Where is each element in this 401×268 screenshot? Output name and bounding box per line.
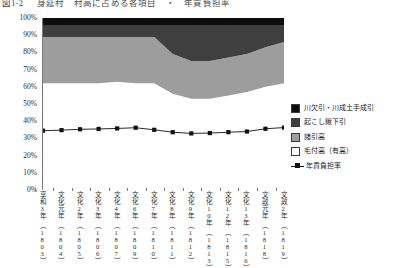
chart-legend: 川欠引・川成土手成引起こし鍬下引諸引高毛付高（有高）年貢負担率	[291, 102, 399, 175]
legend-item-label: 川欠引・川成土手成引	[304, 104, 374, 113]
y-axis-tick-label: 50%	[23, 100, 37, 108]
x-axis-year-label: （1806）	[94, 222, 101, 264]
y-axis-tick-label: 60%	[23, 83, 37, 91]
x-axis-tick: 文化13年（1816）	[238, 191, 253, 268]
x-axis-tick: 文政元年（1818）	[257, 191, 272, 265]
y-axis-tick-label: 20%	[23, 152, 37, 160]
x-axis-year-label: （1816）	[242, 229, 249, 268]
line-series-marker	[43, 129, 45, 133]
x-axis-tick: 文化6年（1809）	[127, 191, 142, 265]
x-axis-year-label: （1805）	[76, 222, 83, 264]
x-axis-era-label: 享和3年	[38, 191, 45, 219]
x-axis-era-label: 文化10年	[205, 191, 212, 226]
legend-color-swatch	[291, 118, 300, 127]
x-axis-tick: 文化2年（1805）	[72, 191, 87, 265]
legend-color-swatch	[291, 104, 300, 113]
x-axis: 享和3年（1803）文化元年（1804）文化2年（1805）文化3年（1806）…	[42, 191, 283, 268]
y-axis-tick-label: 40%	[23, 117, 37, 125]
legend-item: 諸引高	[291, 131, 399, 143]
x-axis-tick-mark	[72, 188, 73, 191]
x-axis-tick: 文政2年（1819）	[276, 191, 291, 265]
x-axis-tick-mark	[164, 188, 165, 191]
stacked-area-svg	[43, 18, 284, 190]
y-axis-tick-label: 10%	[23, 169, 37, 177]
x-axis-tick: 文化元年（1804）	[53, 191, 68, 265]
x-axis-tick-mark	[127, 188, 128, 191]
y-axis-tick-label: 80%	[23, 48, 37, 56]
x-axis-era-label: 文化3年	[94, 191, 101, 219]
x-axis-year-label: （1819）	[279, 222, 286, 264]
legend-item: 起こし鍬下引	[291, 117, 399, 129]
x-axis-era-label: 文化2年	[76, 191, 83, 219]
x-axis-tick-mark	[35, 188, 36, 191]
x-axis-era-label: 文化8年	[168, 191, 175, 219]
x-axis-era-label: 文化13年	[242, 191, 249, 226]
legend-color-swatch	[291, 147, 300, 156]
x-axis-era-label: 文化6年	[131, 191, 138, 219]
legend-color-swatch	[291, 133, 300, 142]
x-axis-tick-mark	[183, 188, 184, 191]
area-band	[43, 18, 284, 25]
x-axis-year-label: （1815）	[224, 229, 231, 268]
x-axis-era-label: 文政元年	[261, 191, 268, 219]
x-axis-tick-mark	[109, 188, 110, 191]
x-axis-tick: 享和3年（1803）	[35, 191, 50, 265]
x-axis-era-label: 文化9年	[187, 191, 194, 219]
x-axis-year-label: （1803）	[38, 222, 45, 264]
x-axis-tick-mark	[146, 188, 147, 191]
legend-item-label: 起こし鍬下引	[304, 118, 346, 127]
x-axis-year-label: （1811）	[168, 222, 175, 264]
x-axis-year-label: （1807）	[113, 222, 120, 264]
x-axis-era-label: 文化元年	[57, 191, 64, 219]
y-axis-tick-label: 90%	[23, 31, 37, 39]
x-axis-tick: 文化9年（1812）	[183, 191, 198, 265]
line-series-marker	[282, 125, 284, 129]
line-series-marker	[152, 128, 156, 132]
x-axis-era-label: 文政2年	[279, 191, 286, 219]
x-axis-tick: 文化7年（1810）	[146, 191, 161, 265]
x-axis-tick-mark	[53, 188, 54, 191]
legend-item: 毛付高（有高）	[291, 146, 399, 158]
line-series-marker	[59, 128, 63, 132]
x-axis-year-label: （1804）	[57, 222, 64, 264]
figure-title: 図1-2 身延村 村高に占める各項目 ・ 年貢負担率	[2, 0, 230, 8]
legend-line-icon	[291, 162, 304, 171]
x-axis-year-label: （1810）	[150, 222, 157, 264]
line-series-marker	[171, 130, 175, 134]
line-series-marker	[189, 131, 193, 135]
line-series-marker	[115, 126, 119, 130]
x-axis-tick-mark	[201, 188, 202, 191]
line-series-marker	[78, 127, 82, 131]
x-axis-tick: 文化12年（1815）	[220, 191, 235, 268]
y-axis-tick-label: 30%	[23, 134, 37, 142]
line-series-marker	[134, 126, 138, 130]
x-axis-year-label: （1813）	[205, 229, 212, 268]
x-axis-tick: 文化10年（1813）	[201, 191, 216, 268]
line-series-marker	[245, 129, 249, 133]
x-axis-year-label: （1812）	[187, 222, 194, 264]
x-axis-tick-mark	[238, 188, 239, 191]
legend-item-label: 年貢負担率	[306, 162, 341, 171]
x-axis-year-label: （1809）	[131, 222, 138, 264]
x-axis-tick-mark	[276, 188, 277, 191]
area-band	[43, 82, 284, 190]
legend-item-label: 毛付高（有高）	[304, 147, 353, 156]
line-series-marker	[208, 131, 212, 135]
chart-plot-area	[42, 18, 283, 190]
line-series-marker	[226, 130, 230, 134]
y-axis-tick-label: 100%	[20, 14, 38, 22]
x-axis-tick: 文化3年（1806）	[90, 191, 105, 265]
x-axis-tick-mark	[220, 188, 221, 191]
x-axis-year-label: （1818）	[261, 222, 268, 264]
y-axis: 0%10%20%30%40%50%60%70%80%90%100%	[0, 18, 40, 190]
x-axis-tick-mark	[90, 188, 91, 191]
x-axis-tick: 文化4年（1807）	[109, 191, 124, 265]
x-axis-era-label: 文化7年	[150, 191, 157, 219]
line-series-marker	[97, 127, 101, 131]
line-series-marker	[263, 127, 267, 131]
x-axis-tick: 文化8年（1811）	[164, 191, 179, 265]
legend-item-label: 諸引高	[304, 133, 325, 142]
legend-item: 年貢負担率	[291, 160, 399, 172]
x-axis-era-label: 文化12年	[224, 191, 231, 226]
legend-item: 川欠引・川成土手成引	[291, 102, 399, 114]
